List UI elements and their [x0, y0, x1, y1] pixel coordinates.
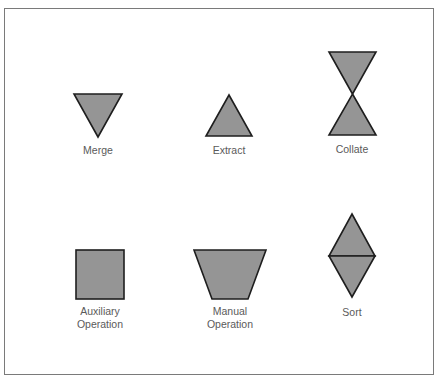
sort-upper-triangle	[329, 214, 375, 256]
auxiliary-operation-symbol	[76, 250, 124, 299]
merge-label: Merge	[48, 144, 148, 157]
extract-symbol	[206, 95, 252, 136]
manual-operation-label: Manual Operation	[180, 305, 280, 331]
manual-operation-symbol	[194, 250, 266, 299]
collate-lower-triangle	[329, 94, 376, 135]
collate-label: Collate	[302, 143, 402, 156]
auxiliary-operation-label: Auxiliary Operation	[50, 305, 150, 331]
sort-lower-triangle	[329, 256, 375, 297]
collate-upper-triangle	[329, 52, 376, 94]
sort-symbol	[329, 214, 375, 297]
merge-symbol	[74, 94, 122, 137]
collate-symbol	[329, 52, 376, 135]
sort-label: Sort	[302, 306, 402, 319]
extract-label: Extract	[179, 144, 279, 157]
